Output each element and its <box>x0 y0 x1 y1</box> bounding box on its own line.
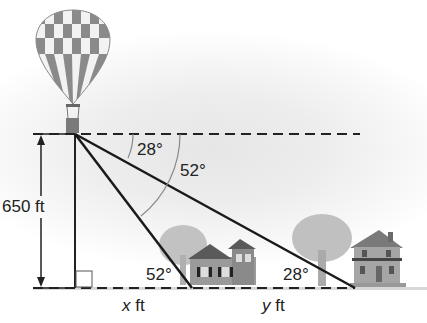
angle-label-top-28: 28° <box>137 141 163 158</box>
y-distance-label: y ft <box>262 297 285 314</box>
angle-label-top-52: 52° <box>180 162 206 179</box>
diagram-canvas <box>0 0 427 323</box>
sight-line-near <box>75 134 192 288</box>
angle-label-bottom-52: 52° <box>146 266 172 283</box>
x-distance-label: x ft <box>122 297 145 314</box>
house-far-icon <box>350 230 406 287</box>
height-label: 650 ft <box>2 198 45 215</box>
right-angle-marker <box>76 271 92 287</box>
hot-air-balloon-icon <box>36 10 110 133</box>
angle-label-bottom-28: 28° <box>283 266 309 283</box>
angle-of-depression-diagram: 650 ft 28° 52° 52° 28° x ft y ft <box>0 0 427 323</box>
arc-28 <box>128 134 133 158</box>
